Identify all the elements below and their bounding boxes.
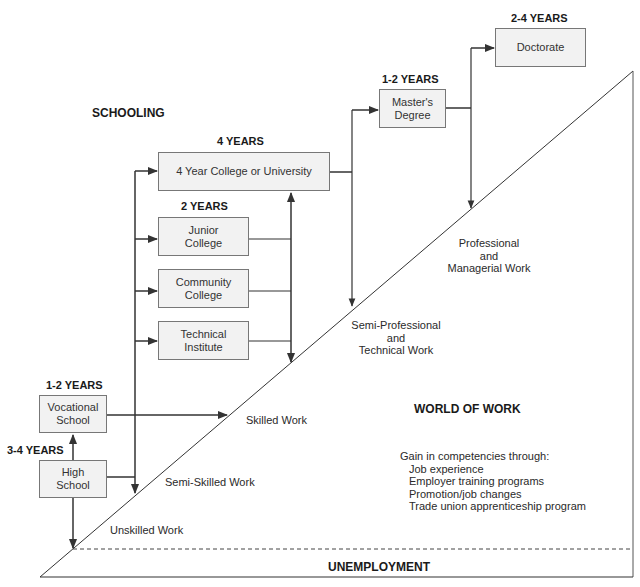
- node-community-college[interactable]: Community College: [158, 269, 249, 308]
- node-vocational-school[interactable]: Vocational School: [39, 395, 107, 433]
- duration-vocational: 1-2 YEARS: [46, 379, 103, 391]
- world-of-work-title: WORLD OF WORK: [414, 402, 521, 416]
- node-vocational-school-label: Vocational School: [48, 401, 99, 427]
- work-level-semi-professional: Semi-Professional and Technical Work: [350, 319, 442, 357]
- node-masters-degree-label: Master's Degree: [392, 96, 433, 122]
- work-level-skilled: Skilled Work: [246, 414, 307, 426]
- node-junior-college[interactable]: Junior College: [158, 217, 249, 256]
- work-level-semi-skilled: Semi-Skilled Work: [165, 476, 255, 488]
- competency-item: Job experience: [400, 463, 586, 476]
- schooling-title: SCHOOLING: [92, 106, 165, 120]
- work-level-professional: Professional and Managerial Work: [442, 237, 536, 275]
- duration-college: 4 YEARS: [217, 135, 264, 147]
- node-technical-institute-label: Technical Institute: [181, 328, 227, 354]
- node-doctorate-label: Doctorate: [517, 41, 565, 54]
- node-doctorate[interactable]: Doctorate: [495, 28, 586, 67]
- duration-two-year: 2 YEARS: [181, 200, 228, 212]
- unemployment-label: UNEMPLOYMENT: [328, 560, 430, 574]
- node-high-school-label: High School: [56, 466, 90, 492]
- work-level-unskilled: Unskilled Work: [110, 524, 183, 536]
- competency-item: Employer training programs: [400, 475, 586, 488]
- duration-high-school: 3-4 YEARS: [7, 444, 64, 456]
- duration-masters: 1-2 YEARS: [382, 73, 439, 85]
- node-community-college-label: Community College: [176, 276, 232, 302]
- node-junior-college-label: Junior College: [185, 224, 222, 250]
- node-technical-institute[interactable]: Technical Institute: [158, 321, 249, 360]
- node-college-university[interactable]: 4 Year College or University: [158, 152, 330, 191]
- competency-item: Promotion/job changes: [400, 488, 586, 501]
- competencies-list: Gain in competencies through: Job experi…: [400, 450, 586, 513]
- node-high-school[interactable]: High School: [39, 460, 107, 498]
- competencies-heading: Gain in competencies through:: [400, 450, 586, 463]
- node-college-university-label: 4 Year College or University: [176, 165, 312, 178]
- competency-item: Trade union apprenticeship program: [400, 500, 586, 513]
- duration-doctorate: 2-4 YEARS: [511, 12, 568, 24]
- node-masters-degree[interactable]: Master's Degree: [379, 89, 446, 128]
